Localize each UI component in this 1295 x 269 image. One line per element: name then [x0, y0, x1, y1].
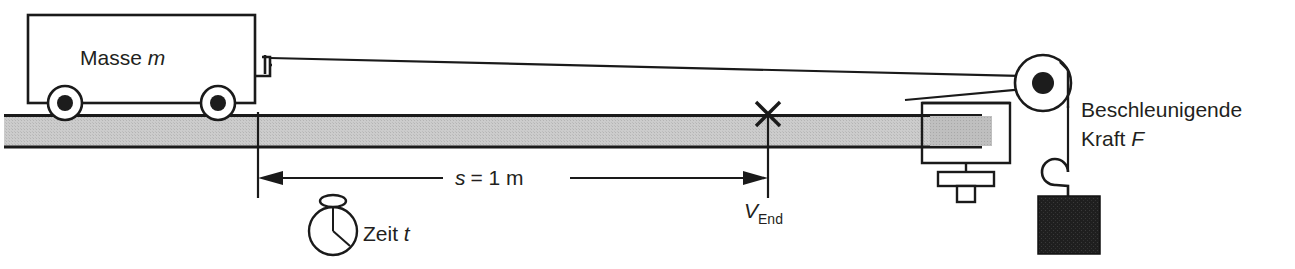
cart-group: Masse m [28, 15, 272, 120]
cart-tow-hook [255, 57, 272, 76]
force-label-prefix: Kraft [1081, 127, 1131, 150]
time-prefix: Zeit [363, 222, 404, 245]
cart-wheel-rear [48, 86, 82, 120]
device-foot [957, 186, 975, 202]
device-collar [938, 172, 994, 186]
hook-icon [1042, 159, 1068, 196]
stopwatch-icon [309, 195, 357, 255]
velocity-subscript: End [758, 211, 783, 227]
time-symbol: t [404, 222, 411, 245]
distance-symbol: s [455, 166, 466, 189]
device-inner-block [930, 116, 992, 146]
force-label-line2: Kraft F [1081, 127, 1145, 150]
experiment-setup-svg: Masse m [0, 0, 1295, 269]
distance-dimension: s= 1 m [258, 166, 768, 189]
track-fill [4, 116, 982, 146]
cart-wheel-front [201, 86, 235, 120]
wheel-hub [57, 95, 73, 111]
force-label-line1: Beschleunigende [1081, 98, 1242, 121]
tow-string-group [270, 58, 1035, 100]
end-stop-device [922, 103, 1010, 202]
distance-value: = 1 m [471, 166, 524, 189]
dimension-arrowhead-left [258, 171, 283, 185]
cart-mass-symbol: m [148, 46, 166, 69]
tow-string-upper [270, 58, 1025, 76]
pulley-group [1015, 55, 1071, 111]
track-rail [4, 116, 982, 148]
weight-block-icon [1038, 196, 1100, 254]
pulley-axle [1032, 72, 1054, 94]
physics-diagram-figure: Masse m [0, 0, 1295, 269]
stopwatch-crown [320, 195, 346, 207]
cart-mass-prefix: Masse [80, 46, 148, 69]
time-label: Zeit t [363, 222, 411, 245]
dimension-arrowhead-right [743, 171, 768, 185]
cart-mass-label: Masse m [80, 46, 165, 69]
wheel-hub [210, 95, 226, 111]
distance-label: s= 1 m [455, 166, 524, 189]
velocity-end-label: VEnd [744, 199, 783, 227]
force-label-symbol: F [1131, 127, 1145, 150]
